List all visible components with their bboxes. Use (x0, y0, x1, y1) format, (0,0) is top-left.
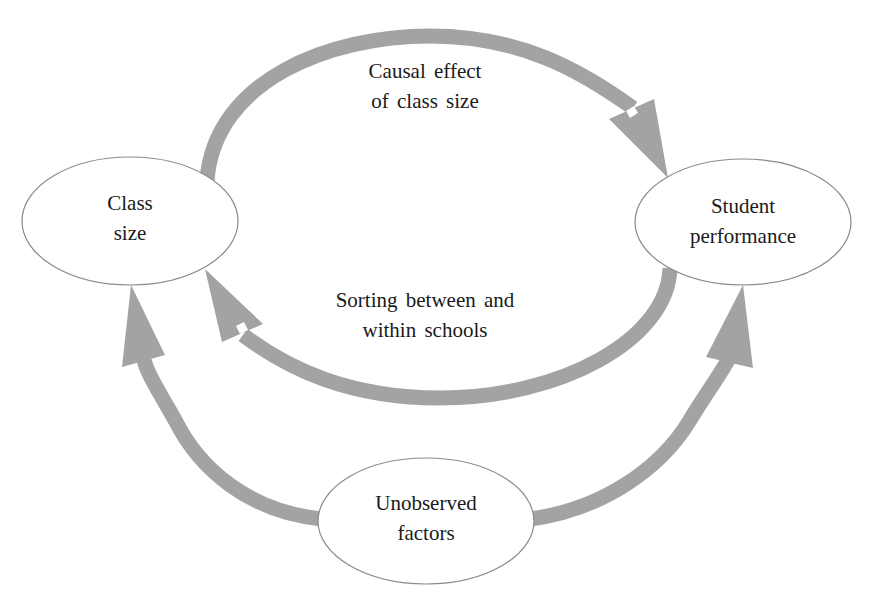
sorting-line1: Sorting between and (305, 285, 545, 315)
class-size-line2: size (80, 218, 180, 248)
node-class-size-label: Class size (80, 188, 180, 248)
arrowhead-icon (706, 285, 753, 368)
causal-effect-line2: of class size (335, 86, 515, 116)
arrow-band (144, 360, 322, 519)
arrowhead-icon (122, 285, 165, 367)
unobserved-factors-line2: factors (356, 518, 496, 548)
edge-causal-effect-label: Causal effect of class size (335, 56, 515, 116)
sorting-line2: within schools (305, 315, 545, 345)
student-performance-line1: Student (668, 191, 818, 221)
class-size-line1: Class (80, 188, 180, 218)
edge-sorting-label: Sorting between and within schools (305, 285, 545, 345)
unobserved-factors-line1: Unobserved (356, 488, 496, 518)
arrowhead-icon (205, 269, 263, 342)
arrowhead-icon (609, 99, 668, 178)
student-performance-line2: performance (668, 221, 818, 251)
node-unobserved-factors-label: Unobserved factors (356, 488, 496, 548)
causal-effect-line1: Causal effect (335, 56, 515, 86)
node-student-performance-label: Student performance (668, 191, 818, 251)
